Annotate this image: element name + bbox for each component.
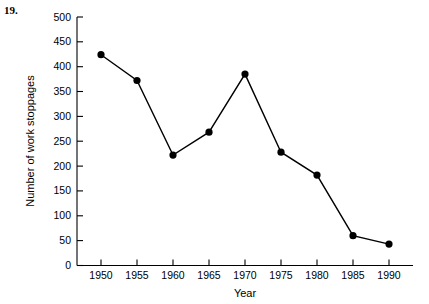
y-tick-label: 100	[53, 209, 71, 221]
figure-container: 19. 0 50 100 150 200 250 300	[0, 0, 429, 304]
data-series-line	[101, 55, 389, 244]
y-tick-label: 300	[53, 110, 71, 122]
data-point[interactable]	[313, 172, 320, 179]
x-tick-label: 1960	[161, 269, 185, 281]
data-point[interactable]	[97, 51, 104, 58]
x-tick-label: 1950	[89, 269, 113, 281]
data-point[interactable]	[277, 149, 284, 156]
x-tick-label: 1990	[377, 269, 401, 281]
x-axis-ticks	[101, 260, 389, 266]
y-tick-label: 500	[53, 11, 71, 23]
x-tick-label: 1955	[125, 269, 149, 281]
data-point[interactable]	[241, 71, 248, 78]
y-tick-label: 50	[59, 234, 71, 246]
y-tick-label: 250	[53, 135, 71, 147]
y-tick-label: 200	[53, 160, 71, 172]
x-tick-label: 1970	[233, 269, 257, 281]
y-axis-ticks	[77, 17, 83, 266]
y-tick-label: 0	[65, 259, 71, 271]
x-axis-tick-labels: 1950 1955 1960 1965 1970 1975 1980 1985 …	[89, 269, 401, 281]
line-chart: 0 50 100 150 200 250 300 350 400 450 500	[0, 0, 429, 304]
x-tick-label: 1975	[269, 269, 293, 281]
data-point[interactable]	[205, 129, 212, 136]
data-point[interactable]	[385, 241, 392, 248]
data-point[interactable]	[169, 152, 176, 159]
x-axis-title: Year	[234, 287, 257, 299]
y-tick-label: 150	[53, 184, 71, 196]
x-tick-label: 1980	[305, 269, 329, 281]
y-tick-label: 400	[53, 60, 71, 72]
y-axis-tick-labels: 0 50 100 150 200 250 300 350 400 450 500	[53, 11, 71, 272]
y-tick-label: 350	[53, 85, 71, 97]
data-points	[97, 51, 392, 248]
x-tick-label: 1985	[341, 269, 365, 281]
y-tick-label: 450	[53, 35, 71, 47]
x-tick-label: 1965	[197, 269, 221, 281]
y-axis-title: Number of work stoppages	[24, 75, 36, 207]
data-point[interactable]	[133, 77, 140, 84]
data-point[interactable]	[349, 232, 356, 239]
